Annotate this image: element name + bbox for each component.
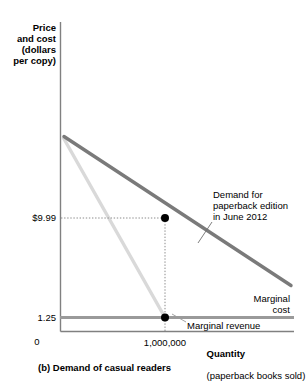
marginal-revenue-annotation: Marginal revenue (187, 320, 293, 331)
marginal-cost-annotation: Marginal cost (228, 293, 290, 315)
x-tick-label-quantity: 1,000,000 (125, 337, 205, 348)
price-point-marker (161, 214, 169, 222)
figure-caption: (b) Demand of casual readers (38, 362, 278, 373)
x-axis-title-main: Quantity (207, 348, 246, 359)
y-tick-label-cost: 1.25 (6, 312, 56, 323)
demand-curve-annotation: Demand for paperback edition in June 201… (213, 189, 295, 222)
y-axis-title: Price and cost (dollars per copy) (0, 22, 56, 66)
x-axis-title: Quantity (paperback books sold) (196, 337, 294, 385)
y-tick-label-price: $9.99 (6, 212, 56, 223)
mr-equals-mc-point-marker (161, 314, 169, 322)
marginal-revenue-line (64, 138, 166, 318)
origin-label: 0 (30, 336, 44, 347)
